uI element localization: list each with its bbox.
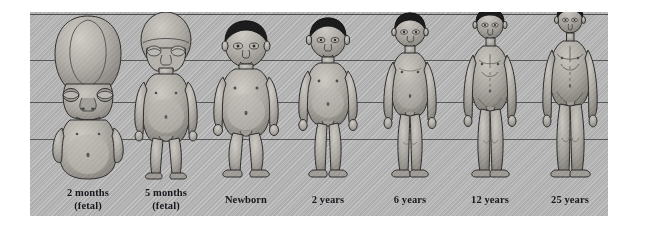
stage-figure-2-years[interactable]: 2 years	[288, 12, 368, 216]
growth-proportions-figure: 2 months (fetal)	[0, 0, 645, 232]
stage-figure-6-years[interactable]: 6 years	[370, 12, 450, 216]
stage-figure-fetal-2-months[interactable]: 2 months (fetal)	[48, 12, 128, 216]
stage-figure-25-years[interactable]: 25 years	[530, 12, 608, 216]
adolescent-12-years-illustration	[450, 12, 530, 180]
caption-line-1: 2 years	[312, 194, 344, 205]
child-6-years-illustration	[370, 12, 450, 180]
caption-line-1: 25 years	[551, 194, 589, 205]
caption-line-1: Newborn	[225, 194, 267, 205]
diagram-panel: 2 months (fetal)	[30, 12, 608, 216]
newborn-illustration	[206, 12, 286, 180]
stage-figure-fetal-5-months[interactable]: 5 months (fetal)	[126, 12, 206, 216]
stage-figure-newborn[interactable]: Newborn	[206, 12, 286, 216]
caption-line-1: 5 months	[145, 187, 187, 198]
child-2-years-illustration	[288, 12, 368, 180]
stage-figure-12-years[interactable]: 12 years	[450, 12, 530, 216]
caption-line-1: 6 years	[394, 194, 426, 205]
stage-caption-25-years: 25 years	[516, 194, 608, 207]
caption-line-1: 12 years	[471, 194, 509, 205]
fetus-2-months-illustration	[48, 12, 128, 180]
adult-25-years-illustration	[530, 12, 608, 180]
caption-line-1: 2 months	[67, 187, 109, 198]
fetus-5-months-illustration	[126, 12, 206, 180]
